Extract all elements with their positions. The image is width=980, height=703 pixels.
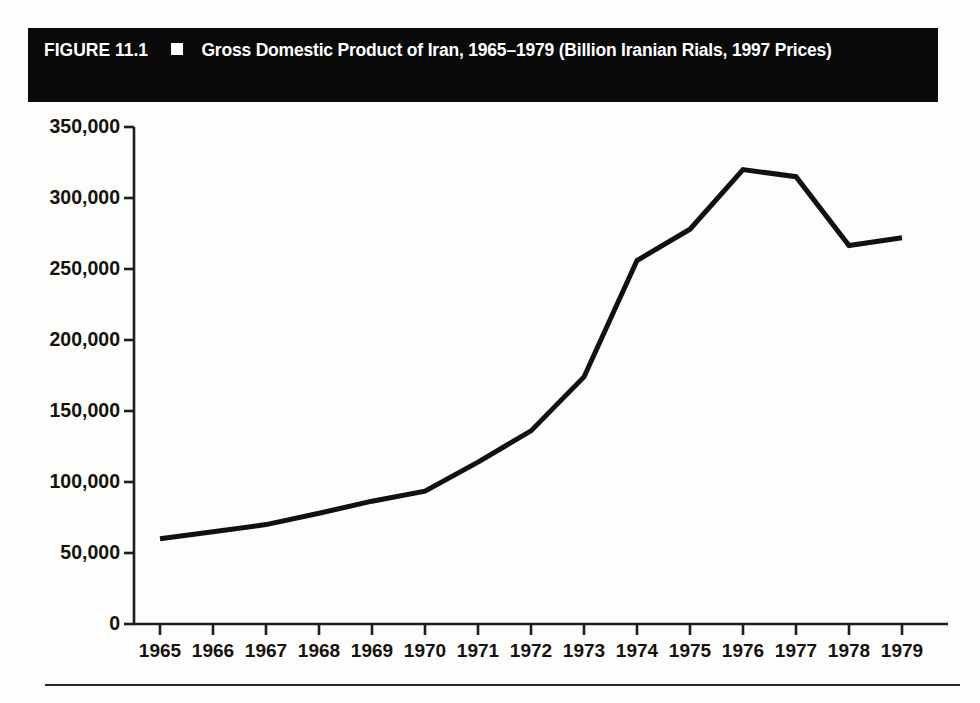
chart-plot-area: 050,000100,000150,000200,000250,000300,0…: [0, 0, 980, 703]
y-axis-tick-label: 100,000: [50, 470, 121, 493]
gdp-data-line: [160, 170, 902, 539]
y-axis-tick-label: 300,000: [50, 186, 121, 209]
x-axis-tick-label: 1971: [448, 640, 508, 662]
x-axis-tick-label: 1973: [554, 640, 614, 662]
y-axis-label-wrapper: 300,000: [0, 186, 120, 210]
y-axis-tick-label: 50,000: [60, 541, 120, 564]
y-axis-label-wrapper: 100,000: [0, 470, 120, 494]
y-axis-tick-label: 150,000: [50, 399, 121, 422]
x-axis-tick-label: 1967: [236, 640, 296, 662]
y-axis-label-wrapper: 150,000: [0, 399, 120, 423]
x-axis-tick-label: 1979: [872, 640, 932, 662]
y-axis-tick-label: 250,000: [50, 257, 121, 280]
figure-bottom-divider: [45, 684, 960, 686]
x-axis-tick-label: 1978: [819, 640, 879, 662]
x-axis-tick-label: 1970: [395, 640, 455, 662]
x-axis-tick-label: 1965: [130, 640, 190, 662]
x-axis-tick-label: 1972: [501, 640, 561, 662]
y-axis-label-wrapper: 200,000: [0, 328, 120, 352]
y-axis-tick-label: 0: [109, 612, 120, 635]
x-axis-tick-label: 1975: [660, 640, 720, 662]
x-axis-tick-label: 1976: [713, 640, 773, 662]
x-axis-tick-label: 1969: [342, 640, 402, 662]
y-axis-tick-label: 350,000: [50, 115, 121, 138]
y-axis-label-wrapper: 250,000: [0, 257, 120, 281]
x-axis-tick-label: 1968: [289, 640, 349, 662]
x-axis-tick-label: 1977: [766, 640, 826, 662]
y-axis-label-wrapper: 350,000: [0, 115, 120, 139]
x-axis-tick-label: 1966: [183, 640, 243, 662]
figure-container: FIGURE 11.1 Gross Domestic Product of Ir…: [0, 0, 980, 703]
x-axis-tick-label: 1974: [607, 640, 667, 662]
y-axis-label-wrapper: 0: [0, 612, 120, 636]
y-axis-tick-label: 200,000: [50, 328, 121, 351]
y-axis-label-wrapper: 50,000: [0, 541, 120, 565]
line-chart-svg: [0, 0, 980, 703]
